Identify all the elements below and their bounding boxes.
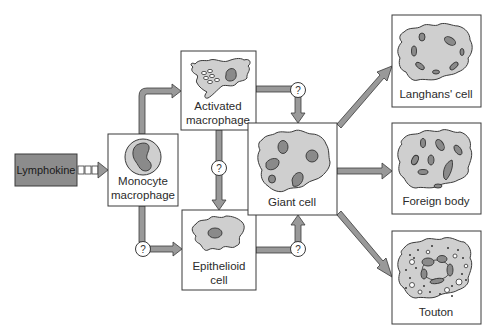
unknown-marker-activated-giant: ? <box>291 83 306 98</box>
svg-text:Monocyte: Monocyte <box>118 175 168 187</box>
macrophage-differentiation-diagram: ? ? ? ? Lymphokine Monocyte macrophage <box>0 0 501 328</box>
arrow-giant-to-langhans <box>337 66 392 128</box>
foreign-body-cell-icon <box>398 130 472 188</box>
svg-text:Epithelioid: Epithelioid <box>192 260 245 272</box>
svg-text:?: ? <box>295 244 301 255</box>
node-lymphokine: Lymphokine <box>15 154 77 186</box>
arrow-monocyte-to-activated <box>139 84 181 134</box>
lymphokine-label: Lymphokine <box>17 164 76 176</box>
node-monocyte-macrophage: Monocyte macrophage <box>108 134 178 206</box>
svg-text:Giant cell: Giant cell <box>268 196 316 208</box>
unknown-marker-epithelioid-giant: ? <box>291 242 306 257</box>
svg-text:macrophage: macrophage <box>186 114 250 126</box>
svg-text:Foreign body: Foreign body <box>402 195 469 207</box>
svg-text:?: ? <box>295 85 301 96</box>
unknown-marker-monocyte-epithelioid: ? <box>136 242 151 257</box>
node-giant-cell: Giant cell <box>248 123 337 215</box>
node-foreign-body-cell: Foreign body <box>392 123 481 214</box>
arrow-lymphokine-to-monocyte <box>78 162 108 178</box>
svg-text:?: ? <box>216 163 222 174</box>
monocyte-cell-icon <box>125 139 161 175</box>
touton-cell-icon <box>398 238 472 298</box>
node-activated-macrophage: Activated macrophage <box>181 51 256 130</box>
svg-text:macrophage: macrophage <box>111 189 175 201</box>
node-langhans-cell: Langhans' cell <box>392 15 481 107</box>
unknown-marker-activated-epithelioid: ? <box>212 161 227 176</box>
svg-text:Activated: Activated <box>194 100 241 112</box>
svg-text:Touton: Touton <box>419 306 454 318</box>
node-epithelioid-cell: Epithelioid cell <box>182 210 256 290</box>
arrow-giant-to-touton <box>337 211 392 277</box>
arrow-giant-to-foreign <box>337 163 392 179</box>
svg-text:?: ? <box>140 244 146 255</box>
node-touton-cell: Touton <box>392 231 481 324</box>
svg-text:cell: cell <box>210 274 227 286</box>
svg-text:Langhans' cell: Langhans' cell <box>399 88 472 100</box>
